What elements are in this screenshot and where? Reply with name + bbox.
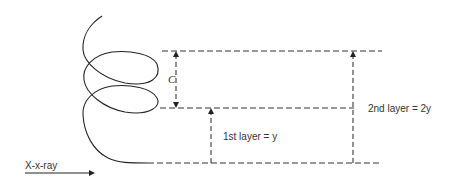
second-layer-label: 2nd layer = 2y [368, 103, 431, 114]
helix-diagram: C 1st layer = y 2nd layer = 2y X-x-ray [0, 0, 457, 187]
pitch-label: C [168, 73, 176, 85]
xray-label: X-x-ray [25, 160, 57, 171]
first-layer-label: 1st layer = y [223, 131, 277, 142]
helix-curve [83, 16, 158, 163]
